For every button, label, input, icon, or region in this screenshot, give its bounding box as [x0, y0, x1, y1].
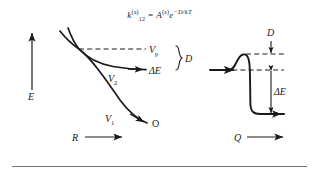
brace-label: D [184, 53, 193, 64]
crossing-level-label: Vp [149, 44, 158, 57]
curve-v1 [60, 31, 147, 123]
bottom-divider [12, 166, 307, 167]
reaction-profile-curve [210, 54, 284, 114]
curve-v2-arrowhead [128, 69, 143, 70]
left-x-axis-label: R [71, 132, 78, 143]
left-y-axis-label: E [27, 91, 34, 102]
drop-label: ΔE [273, 86, 286, 97]
curve-v1-label: V1 [105, 113, 114, 126]
right-x-axis-label: Q [234, 132, 242, 143]
curve-v1-arrowhead [130, 114, 144, 122]
brace-icon [176, 46, 182, 70]
figure-container: k(a)12 = A(a)e−D/kT E R V1 O [0, 0, 319, 179]
energy-gap-label: ΔE [148, 65, 161, 76]
curve-v2-label: V2 [108, 73, 117, 86]
outcome-label: O [152, 118, 159, 129]
figure-svg: E R V1 O V2 Vp ΔE D [0, 0, 319, 179]
barrier-label: D [266, 27, 275, 38]
